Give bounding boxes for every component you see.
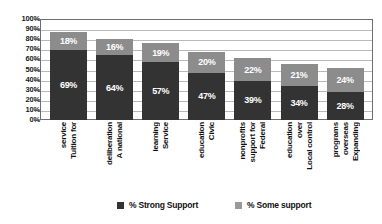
- bar-value-label: 20%: [198, 57, 215, 67]
- bar-value-label: 18%: [60, 36, 77, 46]
- x-axis-label-line: education: [285, 122, 294, 158]
- bar-segment-strong-support[interactable]: 28%: [327, 92, 364, 120]
- bar-group[interactable]: 39%22%: [234, 19, 271, 120]
- bar-group[interactable]: 69%18%: [50, 19, 87, 120]
- legend-item[interactable]: % Strong Support: [117, 200, 198, 210]
- y-axis-tick-mark: [34, 70, 39, 71]
- legend-item[interactable]: % Some support: [235, 200, 311, 210]
- bar-value-label: 34%: [290, 98, 307, 108]
- y-axis-tick-mark: [34, 19, 39, 20]
- bar-group[interactable]: 34%21%: [281, 19, 318, 120]
- bar-value-label: 21%: [290, 70, 307, 80]
- bar-value-label: 57%: [152, 86, 169, 96]
- y-axis-tick-mark: [34, 100, 39, 101]
- y-axis-tick-mark: [34, 80, 39, 81]
- bar-segment-some-support[interactable]: 21%: [281, 64, 318, 85]
- bar-value-label: 24%: [337, 75, 354, 85]
- bar-value-label: 19%: [152, 48, 169, 58]
- x-axis-label-line: Tuition for: [69, 122, 78, 159]
- bar-segment-some-support[interactable]: 20%: [188, 52, 225, 72]
- x-axis-label-line: overseas: [341, 122, 350, 155]
- y-axis-tick-mark: [34, 29, 39, 30]
- bar-value-label: 47%: [198, 91, 215, 101]
- y-axis-tick-mark: [34, 120, 39, 121]
- bars-layer: 69%18%64%16%57%19%47%20%39%22%34%21%28%2…: [40, 19, 373, 120]
- x-axis-label-line: A national: [115, 122, 124, 158]
- bar-segment-strong-support[interactable]: 64%: [96, 55, 133, 120]
- chart-legend: % Strong Support% Some support: [0, 200, 382, 216]
- x-axis-label-line: service: [59, 122, 68, 148]
- y-axis-tick-mark: [34, 39, 39, 40]
- bar-value-label: 16%: [106, 42, 123, 52]
- bar-segment-strong-support[interactable]: 34%: [281, 86, 318, 120]
- stacked-bar-chart: 0%10%20%30%40%50%60%70%80%90%100% 69%18%…: [0, 0, 382, 224]
- x-axis-label-line: Service: [161, 122, 170, 149]
- bar-segment-strong-support[interactable]: 57%: [142, 62, 179, 120]
- y-axis-tick-mark: [34, 90, 39, 91]
- bar-segment-some-support[interactable]: 18%: [50, 32, 87, 50]
- bar-group[interactable]: 47%20%: [188, 19, 225, 120]
- bar-group[interactable]: 64%16%: [96, 19, 133, 120]
- bar-segment-some-support[interactable]: 19%: [142, 43, 179, 62]
- x-axis-category-label: Local controlovereducation: [281, 122, 318, 194]
- bar-value-label: 39%: [244, 95, 261, 105]
- bar-value-label: 69%: [60, 80, 77, 90]
- x-axis-category-label: Expandingoverseasprograms: [327, 122, 364, 194]
- x-axis-label-line: learning: [151, 122, 160, 152]
- y-axis-tick-mark: [34, 49, 39, 50]
- x-axis-category-label: A nationaldeliberation: [96, 122, 133, 194]
- bar-segment-strong-support[interactable]: 39%: [234, 81, 271, 120]
- bar-segment-some-support[interactable]: 22%: [234, 58, 271, 80]
- x-axis-label-line: nonprofits: [238, 122, 247, 160]
- x-axis-category-label: Servicelearning: [142, 122, 179, 194]
- x-axis-label-line: support for: [248, 122, 257, 162]
- bar-value-label: 64%: [106, 83, 123, 93]
- x-axis-label-line: deliberation: [105, 122, 114, 165]
- legend-label: % Some support: [247, 200, 311, 210]
- legend-label: % Strong Support: [129, 200, 198, 210]
- bar-segment-strong-support[interactable]: 47%: [188, 73, 225, 120]
- bar-group[interactable]: 28%24%: [327, 19, 364, 120]
- x-axis-label-line: over: [295, 122, 304, 138]
- bar-group[interactable]: 57%19%: [142, 19, 179, 120]
- x-axis-label-line: education: [197, 122, 206, 158]
- x-axis-label-line: Civic: [207, 122, 216, 140]
- y-axis-tick-mark: [34, 110, 39, 111]
- x-axis-label-line: Expanding: [351, 122, 360, 161]
- bar-value-label: 28%: [337, 101, 354, 111]
- bar-segment-strong-support[interactable]: 69%: [50, 50, 87, 120]
- y-axis: 0%10%20%30%40%50%60%70%80%90%100%: [0, 0, 40, 224]
- x-axis-label-line: Local control: [305, 122, 314, 170]
- x-axis-category-label: Civiceducation: [188, 122, 225, 194]
- y-axis-tick-mark: [34, 59, 39, 60]
- bar-value-label: 22%: [244, 65, 261, 75]
- x-axis-labels: Tuition forserviceA nationaldeliberation…: [40, 122, 373, 194]
- legend-swatch-icon: [117, 202, 124, 209]
- x-axis-label-line: Federal: [258, 122, 267, 149]
- x-axis-category-label: Federalsupport fornonprofits: [234, 122, 271, 194]
- legend-swatch-icon: [235, 202, 242, 209]
- x-axis-category-label: Tuition forservice: [50, 122, 87, 194]
- bar-segment-some-support[interactable]: 24%: [327, 68, 364, 92]
- x-axis-label-line: programs: [331, 122, 340, 157]
- bar-segment-some-support[interactable]: 16%: [96, 39, 133, 55]
